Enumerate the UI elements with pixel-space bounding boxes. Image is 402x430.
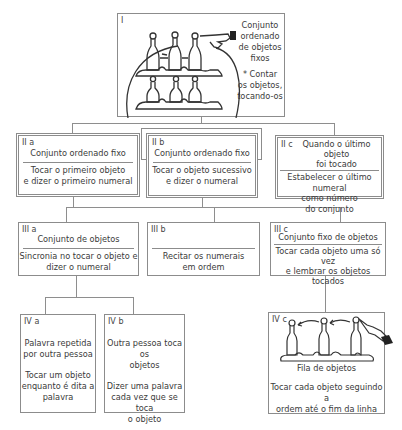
bottle (147, 33, 159, 70)
node-title: Quando o último objeto foi tocado (278, 139, 381, 169)
node-action: Tocar um objeto enquanto é dita a palavr… (21, 370, 95, 403)
node-title: Conjunto ordenado de objetos fixos (236, 20, 284, 64)
node-2b: II b Conjunto ordenado fixo Tocar o obje… (146, 133, 258, 198)
node-title (148, 234, 259, 245)
node-3a: III a Conjunto de objetos Sincronia no t… (18, 222, 139, 276)
node-action: Tocar cada objeto seguindo a ordem até o… (269, 382, 384, 415)
node-title: Outra pessoa toca os objetos (105, 338, 184, 371)
connector (45, 297, 134, 298)
node-label: III c (274, 225, 288, 234)
connector (202, 198, 203, 207)
divider (280, 170, 379, 171)
node-title: Fila de objetos (269, 363, 384, 374)
divider (23, 248, 134, 249)
row-of-bottles-illustration (269, 313, 402, 363)
connector (334, 123, 335, 135)
connector (133, 297, 134, 314)
node-label: III a (22, 225, 37, 234)
node-action: Tocar o objeto sucessivo e dizer o numer… (149, 165, 255, 187)
node-2a: II a Conjunto ordenado fixo Tocar o prim… (16, 133, 140, 197)
node-action: Tocar cada objeto uma só vez e lembrar o… (271, 246, 385, 286)
node-4b: IV b Outra pessoa toca os objetos Dizer … (104, 314, 185, 413)
node-note: * Contar os objetos, tocando-os (234, 69, 286, 102)
divider (23, 162, 133, 163)
node-title: Conjunto ordenado fixo (19, 148, 137, 159)
connector (72, 123, 335, 124)
node-4a: IV a Palavra repetida por outra pessoa T… (20, 314, 96, 413)
connector (76, 276, 77, 297)
node-label: IV b (108, 317, 123, 326)
node-action: Recitar os numerais em ordem (148, 251, 259, 273)
node-action: Sincronia no tocar o objeto e dizer o nu… (19, 251, 138, 273)
node-title: Conjunto ordenado fixo (149, 148, 255, 159)
node-label: II a (22, 138, 34, 147)
node-action: Estabelecer o último numeral como número… (278, 172, 381, 214)
node-level-1: I Conjunto ordenado de objetos fixos * C… (117, 13, 285, 117)
node-action: Dizer uma palavra cada vez que se toca o… (105, 381, 184, 425)
divider (274, 244, 382, 245)
node-3b: III b Recitar os numerais em ordem (147, 222, 260, 276)
connector (214, 207, 215, 222)
node-title: Conjunto de objetos (19, 234, 138, 245)
node-title: Conjunto fixo de objetos (271, 232, 385, 243)
node-3c: III c Conjunto fixo de objetos Tocar cad… (270, 222, 386, 276)
connector (66, 207, 67, 222)
node-label: III b (151, 225, 166, 234)
node-2c: II c Quando o último objeto foi tocado E… (275, 135, 384, 199)
node-title: Palavra repetida por outra pessoa (21, 338, 95, 360)
node-label: IV a (24, 317, 39, 326)
connector (72, 123, 73, 133)
connector (73, 197, 74, 207)
node-4c: IV c Fila de objetos Tocar cada objeto s… (268, 312, 385, 414)
node-label: II c (281, 140, 293, 149)
node-label: II b (152, 138, 164, 147)
node-action: Tocar o primeiro objeto e dizer o primei… (19, 165, 137, 187)
connector (45, 297, 46, 314)
divider (153, 162, 251, 163)
divider (152, 248, 255, 249)
